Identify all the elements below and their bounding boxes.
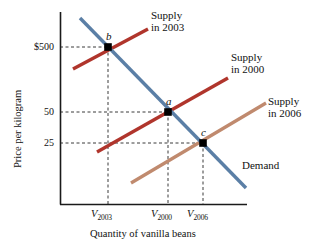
x-tick-label-v2006: V2006 bbox=[187, 208, 208, 222]
marker-point-c bbox=[199, 139, 207, 147]
marker-point-a bbox=[164, 108, 172, 116]
series-label-supply-2000: Supply in 2000 bbox=[231, 51, 264, 76]
point-label-a: a bbox=[166, 95, 172, 107]
y-axis-title: Price per kilogram bbox=[12, 90, 24, 168]
x-tick-v2006-sub: 2006 bbox=[193, 213, 208, 222]
supply-2006-label-line2: in 2006 bbox=[268, 107, 301, 119]
x-tick-v2003-sub: 2003 bbox=[97, 213, 112, 222]
y-tick-label-500: $500 bbox=[10, 41, 54, 52]
axes bbox=[60, 12, 247, 205]
quantity-guide-lines bbox=[108, 47, 203, 204]
series-label-supply-2006: Supply in 2006 bbox=[268, 95, 301, 120]
point-label-b: b bbox=[106, 30, 112, 42]
x-axis-title: Quantity of vanilla beans bbox=[90, 228, 196, 240]
supply-2000-line bbox=[97, 78, 228, 152]
x-tick-label-v2000: V2000 bbox=[151, 208, 172, 222]
supply-demand-chart: $500 50 25 Price per kilogram V2003 V200… bbox=[0, 0, 319, 248]
price-guide-lines bbox=[60, 47, 205, 143]
x-tick-v2000-sub: 2000 bbox=[157, 213, 172, 222]
supply-2000-label-line1: Supply bbox=[231, 51, 264, 63]
supply-2003-label-line1: Supply bbox=[151, 9, 184, 21]
supply-2006-label-line1: Supply bbox=[268, 95, 301, 107]
supply-2003-label-line2: in 2003 bbox=[151, 21, 184, 33]
series-label-demand: Demand bbox=[242, 159, 279, 171]
point-label-c: c bbox=[201, 126, 206, 138]
marker-point-b bbox=[104, 43, 112, 51]
series-label-supply-2003: Supply in 2003 bbox=[151, 9, 184, 34]
x-tick-label-v2003: V2003 bbox=[91, 208, 112, 222]
supply-2000-label-line2: in 2000 bbox=[231, 63, 264, 75]
